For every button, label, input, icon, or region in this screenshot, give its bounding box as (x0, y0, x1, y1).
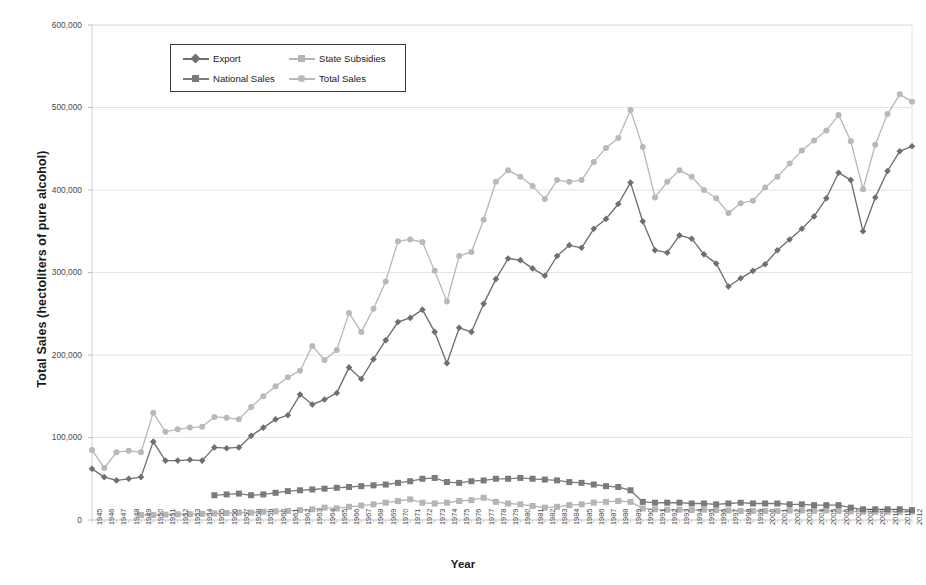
x-tick-label: 2006 (842, 509, 851, 525)
x-tick-label: 1977 (487, 509, 496, 525)
x-tick-label: 1981 (536, 509, 545, 525)
x-tick-label: 1963 (315, 509, 324, 525)
x-tick-label: 1957 (242, 509, 251, 525)
x-tick-label: 1964 (328, 509, 337, 525)
x-tick-label: 1974 (450, 509, 459, 525)
legend-marker-icon (183, 53, 209, 64)
x-tick-label: 1986 (597, 509, 606, 525)
x-tick-label: 1955 (217, 509, 226, 525)
x-tick-label: 2000 (768, 509, 777, 525)
x-tick-label: 1948 (132, 509, 141, 525)
x-tick-label: 1958 (254, 509, 263, 525)
legend-label: Total Sales (319, 73, 366, 84)
y-tick-label: 600,000 (20, 20, 82, 30)
y-tick-label: 400,000 (20, 185, 82, 195)
x-tick-label: 1945 (95, 509, 104, 525)
x-tick-label: 2009 (878, 509, 887, 525)
legend-item-total-sales[interactable]: Total Sales (289, 73, 366, 84)
x-tick-label: 1966 (352, 509, 361, 525)
x-tick-label: 1983 (560, 509, 569, 525)
x-tick-label: 1993 (682, 509, 691, 525)
chart-container: Total Sales (hectoliters of pure alcohol… (0, 0, 926, 585)
x-tick-label: 1982 (548, 509, 557, 525)
x-tick-label: 1988 (621, 509, 630, 525)
x-tick-label: 1991 (658, 509, 667, 525)
x-tick-label: 1975 (462, 509, 471, 525)
y-tick-label: 0 (20, 515, 82, 525)
y-tick-label: 200,000 (20, 350, 82, 360)
x-tick-label: 1961 (291, 509, 300, 525)
x-tick-label: 1946 (107, 509, 116, 525)
x-tick-label: 1996 (719, 509, 728, 525)
x-tick-label: 1978 (499, 509, 508, 525)
x-tick-label: 1994 (695, 509, 704, 525)
x-axis-title: Year (0, 558, 926, 570)
x-tick-label: 1985 (585, 509, 594, 525)
x-tick-label: 1947 (119, 509, 128, 525)
x-tick-label: 1992 (670, 509, 679, 525)
legend-label: Export (213, 53, 241, 64)
x-tick-label: 1953 (193, 509, 202, 525)
x-tick-label: 1970 (401, 509, 410, 525)
x-tick-label: 1951 (168, 509, 177, 525)
x-tick-label: 1987 (609, 509, 618, 525)
x-tick-label: 1954 (205, 509, 214, 525)
legend-marker-icon (183, 73, 209, 84)
x-tick-label: 2001 (780, 509, 789, 525)
legend-item-export[interactable]: Export (183, 53, 241, 64)
x-tick-label: 1984 (572, 509, 581, 525)
line-chart-plot (0, 0, 926, 585)
x-tick-label: 1990 (646, 509, 655, 525)
x-tick-label: 1949 (144, 509, 153, 525)
x-tick-label: 1997 (731, 509, 740, 525)
y-tick-label: 300,000 (20, 267, 82, 277)
legend-marker-icon (289, 53, 315, 64)
x-tick-label: 2008 (866, 509, 875, 525)
x-tick-label: 1972 (425, 509, 434, 525)
legend-marker-icon (289, 73, 315, 84)
x-tick-label: 1956 (230, 509, 239, 525)
chart-legend: ExportState SubsidiesNational SalesTotal… (170, 44, 406, 92)
y-tick-label: 100,000 (20, 432, 82, 442)
x-tick-label: 1950 (156, 509, 165, 525)
x-tick-label: 1968 (376, 509, 385, 525)
x-tick-label: 2007 (854, 509, 863, 525)
x-tick-label: 1999 (756, 509, 765, 525)
x-tick-label: 1980 (523, 509, 532, 525)
x-tick-label: 2004 (817, 509, 826, 525)
x-tick-label: 2003 (805, 509, 814, 525)
x-tick-label: 1979 (511, 509, 520, 525)
legend-label: National Sales (213, 73, 275, 84)
x-tick-label: 1965 (340, 509, 349, 525)
legend-item-state-subsidies[interactable]: State Subsidies (289, 53, 386, 64)
x-tick-label: 2002 (793, 509, 802, 525)
x-tick-label: 1967 (364, 509, 373, 525)
legend-item-national-sales[interactable]: National Sales (183, 73, 275, 84)
x-tick-label: 1973 (438, 509, 447, 525)
x-tick-label: 1969 (389, 509, 398, 525)
x-tick-label: 2012 (915, 509, 924, 525)
x-tick-label: 2011 (903, 509, 912, 525)
x-tick-label: 1989 (634, 509, 643, 525)
x-tick-label: 1995 (707, 509, 716, 525)
x-tick-label: 1952 (181, 509, 190, 525)
x-tick-label: 1998 (744, 509, 753, 525)
x-tick-label: 1960 (279, 509, 288, 525)
x-tick-label: 1962 (303, 509, 312, 525)
x-tick-label: 1959 (266, 509, 275, 525)
x-tick-label: 2010 (891, 509, 900, 525)
x-tick-label: 1976 (474, 509, 483, 525)
legend-label: State Subsidies (319, 53, 386, 64)
x-tick-label: 1971 (413, 509, 422, 525)
y-tick-label: 500,000 (20, 102, 82, 112)
x-tick-label: 2005 (829, 509, 838, 525)
